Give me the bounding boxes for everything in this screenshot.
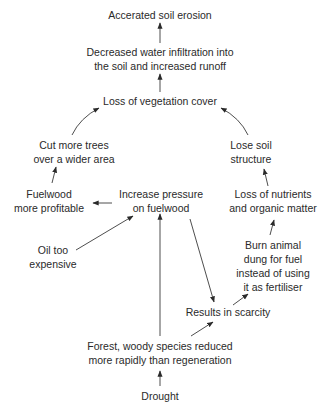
node-text: dung for fuel xyxy=(236,252,310,266)
node-accelerated-soil-erosion: Accerated soil erosion xyxy=(108,8,211,22)
arrow-pressure-to-scarcity xyxy=(190,219,214,302)
node-oil-too-expensive: Oil too expensive xyxy=(29,243,76,271)
node-text: more rapidly than regeneration xyxy=(87,353,232,367)
node-text: Loss of vegetation cover xyxy=(103,94,217,108)
node-text: on fuelwood xyxy=(119,201,203,215)
node-text: instead of using xyxy=(236,266,310,280)
node-text: Increase pressure xyxy=(119,187,203,201)
node-loss-of-vegetation-cover: Loss of vegetation cover xyxy=(103,94,217,108)
node-drought: Drought xyxy=(141,389,178,403)
node-text: Drought xyxy=(141,389,178,403)
node-text: Oil too xyxy=(29,243,76,257)
node-text: Lose soil xyxy=(230,138,271,152)
node-cut-more-trees: Cut more trees over a wider area xyxy=(33,138,114,166)
node-increase-pressure-on-fuelwood: Increase pressure on fuelwood xyxy=(119,187,203,215)
node-lose-soil-structure: Lose soil structure xyxy=(230,138,271,166)
node-text: structure xyxy=(230,152,271,166)
node-text: Burn animal xyxy=(236,238,310,252)
node-text: Cut more trees xyxy=(33,138,114,152)
arrow-soil-structure-to-vegetation xyxy=(221,108,248,135)
node-text: the soil and increased runoff xyxy=(86,59,233,73)
arrow-cut-trees-to-vegetation xyxy=(72,108,99,135)
node-text: Results in scarcity xyxy=(186,305,271,319)
arrow-fuelwood-to-cut-trees xyxy=(52,167,56,183)
node-burn-animal-dung: Burn animal dung for fuel instead of usi… xyxy=(236,238,310,294)
arrow-dung-to-nutrients xyxy=(270,220,274,235)
node-decreased-water-infiltration: Decreased water infiltration into the so… xyxy=(86,45,233,73)
arrow-scarcity-to-dung xyxy=(233,294,248,305)
arrow-oil-to-pressure xyxy=(76,216,133,250)
node-text: Fuelwood xyxy=(14,187,84,201)
node-text: Forest, woody species reduced xyxy=(87,339,232,353)
node-forest-woody-species-reduced: Forest, woody species reduced more rapid… xyxy=(87,339,232,367)
node-fuelwood-more-profitable: Fuelwood more profitable xyxy=(14,187,84,215)
node-text: and organic matter xyxy=(229,201,317,215)
arrow-nutrients-to-soil-structure xyxy=(264,169,268,186)
node-text: it as fertiliser xyxy=(236,280,310,294)
arrow-forest-to-scarcity xyxy=(191,322,213,336)
node-results-in-scarcity: Results in scarcity xyxy=(186,305,271,319)
node-text: expensive xyxy=(29,257,76,271)
node-text: Accerated soil erosion xyxy=(108,8,211,22)
node-loss-of-nutrients: Loss of nutrients and organic matter xyxy=(229,187,317,215)
node-text: Decreased water infiltration into xyxy=(86,45,233,59)
node-text: over a wider area xyxy=(33,152,114,166)
node-text: Loss of nutrients xyxy=(229,187,317,201)
node-text: more profitable xyxy=(14,201,84,215)
